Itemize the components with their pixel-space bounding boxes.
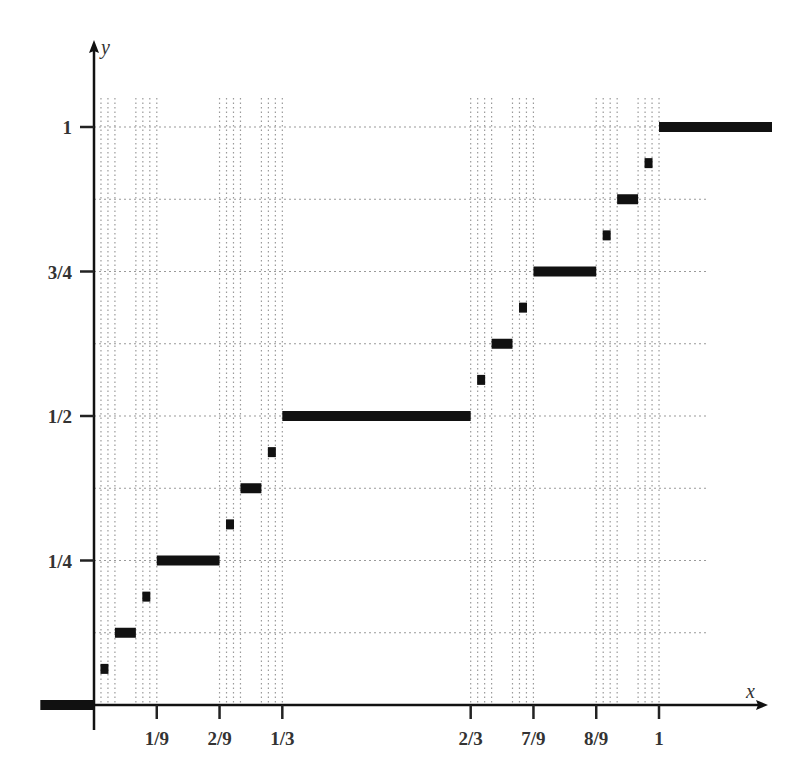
step-segment (40, 700, 94, 710)
x-tick-label: 2/3 (459, 728, 483, 749)
square-marker (477, 375, 485, 385)
axis-ticks: 1/92/91/32/37/98/911/41/23/41 (48, 117, 664, 749)
x-tick-label: 7/9 (521, 728, 545, 749)
x-tick-label: 1/9 (145, 728, 169, 749)
y-tick-label: 1 (63, 117, 73, 138)
square-marker (268, 447, 276, 457)
x-tick-label: 8/9 (584, 728, 608, 749)
y-axis-label: y (99, 36, 110, 59)
cantor-function-chart: x y 1/92/91/32/37/98/911/41/23/41 (0, 0, 803, 778)
step-segment (282, 411, 470, 421)
square-marker (519, 303, 527, 313)
step-segment (115, 628, 136, 638)
step-segment (241, 483, 262, 493)
square-marker (645, 158, 653, 168)
x-tick-label: 1/3 (270, 728, 294, 749)
square-marker (603, 230, 611, 240)
y-tick-label: 3/4 (48, 262, 73, 283)
square-marker (100, 664, 108, 674)
x-tick-label: 2/9 (207, 728, 231, 749)
step-segment (617, 194, 638, 204)
x-axis-label: x (745, 680, 755, 702)
square-marker (226, 519, 234, 529)
y-tick-label: 1/2 (48, 406, 72, 427)
x-tick-label: 1 (654, 728, 664, 749)
step-segment (492, 339, 513, 349)
y-tick-label: 1/4 (48, 551, 73, 572)
square-marker (142, 592, 150, 602)
step-segment (533, 267, 596, 277)
axes: x y (89, 36, 768, 730)
vertical-gridlines (94, 98, 659, 705)
step-segment (157, 556, 220, 566)
step-segment (659, 122, 772, 132)
